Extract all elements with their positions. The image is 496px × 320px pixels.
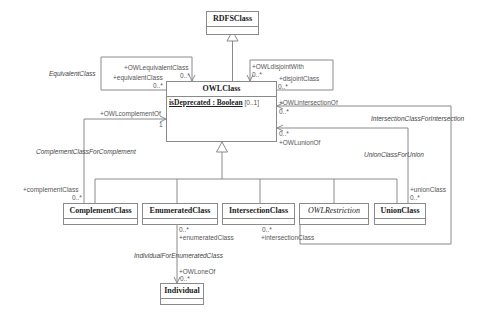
class-individual[interactable]: Individual	[160, 283, 204, 305]
class-name: OWLClass	[167, 82, 276, 97]
class-owlclass[interactable]: OWLClass isDeprecated : Boolean [0..1]	[166, 81, 277, 142]
mult-owlintersectionof: 0..*	[279, 108, 289, 116]
class-attribute: isDeprecated : Boolean [0..1]	[167, 97, 276, 108]
class-name: IntersectionClass	[223, 204, 294, 219]
role-equivalentclass: +equivalentClass	[113, 74, 163, 82]
mult-owldisjointwith: 0..*	[252, 71, 262, 79]
assoc-name-enumerated: IndividualForEnumeratedClass	[134, 252, 223, 260]
assoc-name-complement: ComplementClassForComplement	[36, 148, 136, 156]
role-owlcomplementof: +OWLcomplementOf	[100, 110, 161, 118]
class-name: EnumeratedClass	[143, 204, 217, 219]
role-intersectionclass: +intersectionClass	[261, 234, 314, 242]
mult-owloneof: 0..*	[180, 275, 190, 283]
class-name: OWLRestriction	[300, 204, 368, 219]
class-owlrestriction[interactable]: OWLRestriction	[299, 203, 369, 225]
class-unionclass[interactable]: UnionClass	[374, 203, 426, 225]
role-complementclass: +complementClass	[23, 186, 78, 194]
role-owlunionof: +OWLunionOf	[279, 139, 320, 147]
class-complementclass[interactable]: ComplementClass	[63, 203, 138, 225]
diagram-lines	[0, 0, 496, 320]
class-name: RDFSClass	[207, 12, 258, 27]
assoc-name-equivalent: EquivalentClass	[49, 70, 96, 78]
assoc-name-intersection: IntersectionClassForIntersection	[371, 115, 464, 123]
class-name: Individual	[161, 284, 203, 299]
mult-unionclass: 0..*	[410, 194, 420, 202]
role-owlequivalentclass: +OWLequivalentClass	[124, 64, 189, 72]
mult-disjointclass: 0..*	[278, 83, 288, 91]
mult-intersectionclass: 0..*	[262, 226, 272, 234]
class-intersectionclass[interactable]: IntersectionClass	[222, 203, 295, 225]
mult-owlunionof: 0..*	[279, 130, 289, 138]
class-enumeratedclass[interactable]: EnumeratedClass	[142, 203, 218, 225]
mult-owlcomplementof: 1	[159, 121, 163, 129]
role-owlintersectionof: +OWLintersectionOf	[279, 99, 338, 107]
class-name: ComplementClass	[64, 204, 137, 219]
role-disjointclass: +disjointClass	[279, 75, 319, 83]
class-name: UnionClass	[375, 204, 425, 219]
mult-equivalentclass: 0..*	[153, 82, 163, 90]
role-unionclass: +unionClass	[410, 186, 446, 194]
role-owldisjointwith: +OWLdisjointWith	[252, 63, 304, 71]
role-enumeratedclass: +enumeratedClass	[179, 234, 234, 242]
assoc-name-union: UnionClassForUnion	[364, 151, 424, 159]
class-rdfsclass[interactable]: RDFSClass	[206, 11, 259, 35]
mult-owlequivalentclass: 0..*	[180, 72, 190, 80]
mult-enumeratedclass: 0..*	[179, 226, 189, 234]
mult-complementclass: 0..*	[72, 194, 82, 202]
